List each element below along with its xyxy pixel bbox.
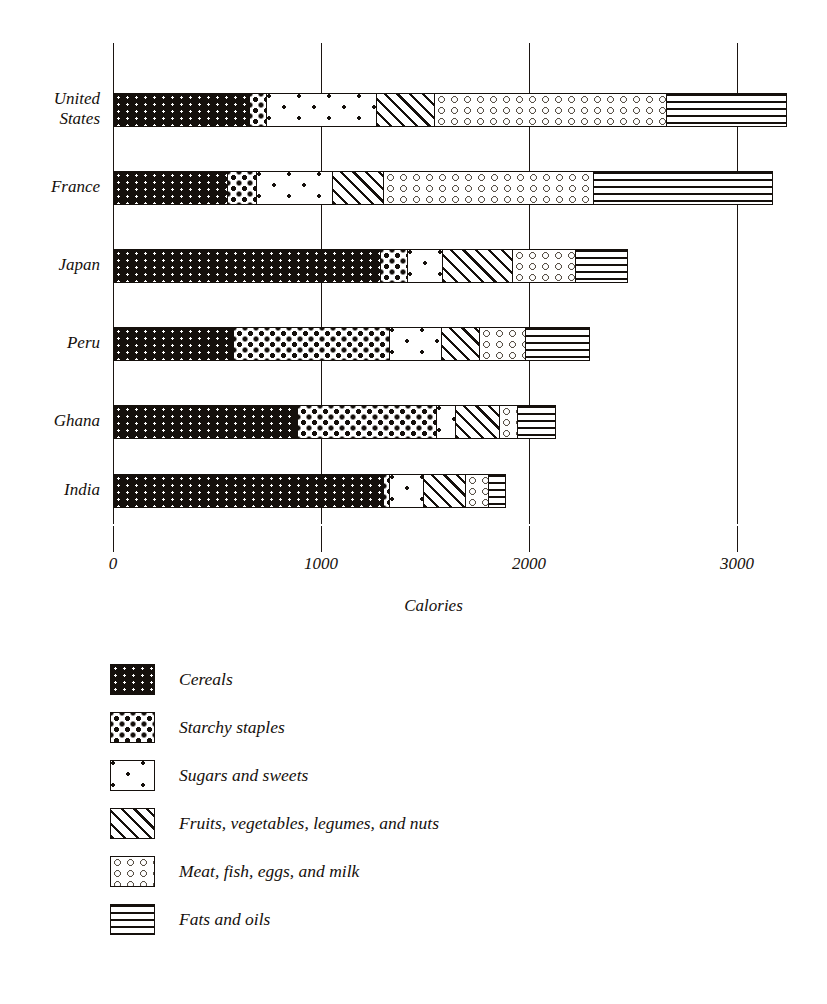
- segment-fruits-vegetables-legumes-and-nuts: [456, 406, 500, 438]
- category-label-ghana: Ghana: [0, 411, 114, 431]
- segment-fruits-vegetables-legumes-and-nuts: [424, 475, 466, 507]
- asterisks-swatch: [110, 760, 155, 791]
- category-label-india: India: [0, 480, 114, 500]
- stacked-bar-chart: United StatesFranceJapanPeruGhanaIndia 0…: [0, 0, 827, 600]
- segment-fruits-vegetables-legumes-and-nuts: [333, 172, 384, 204]
- segment-cereals: [114, 172, 228, 204]
- segment-meat-fish-eggs-and-milk: [480, 328, 527, 360]
- legend-label: Sugars and sweets: [179, 765, 308, 786]
- segment-fruits-vegetables-legumes-and-nuts: [442, 328, 480, 360]
- segment-meat-fish-eggs-and-milk: [466, 475, 489, 507]
- legend-label: Cereals: [179, 669, 233, 690]
- segment-fats-and-oils: [489, 475, 505, 507]
- legend-label: Fats and oils: [179, 909, 270, 930]
- segment-sugars-and-sweets: [257, 172, 333, 204]
- legend-item: Fats and oils: [110, 895, 730, 943]
- chart-legend: CerealsStarchy staplesSugars and sweetsF…: [110, 655, 730, 943]
- category-label-united-states: United States: [0, 89, 114, 129]
- segment-starchy-staples: [228, 172, 258, 204]
- legend-label: Fruits, vegetables, legumes, and nuts: [179, 813, 439, 834]
- category-label-peru: Peru: [0, 333, 114, 353]
- bar-india: [113, 474, 506, 508]
- tick-label-2000: 2000: [489, 554, 569, 574]
- category-label-france: France: [0, 177, 114, 197]
- segment-starchy-staples: [381, 250, 408, 282]
- segment-sugars-and-sweets: [267, 94, 377, 126]
- chart-page: United StatesFranceJapanPeruGhanaIndia 0…: [0, 0, 827, 1004]
- bar-united-states: [113, 93, 787, 127]
- tick-mark-2000: [529, 526, 530, 552]
- segment-meat-fish-eggs-and-milk: [435, 94, 667, 126]
- legend-item: Starchy staples: [110, 703, 730, 751]
- tick-label-3000: 3000: [697, 554, 777, 574]
- segment-meat-fish-eggs-and-milk: [513, 250, 576, 282]
- segment-fruits-vegetables-legumes-and-nuts: [443, 250, 514, 282]
- segment-starchy-staples: [298, 406, 437, 438]
- segment-meat-fish-eggs-and-milk: [384, 172, 594, 204]
- bar-ghana: [113, 405, 556, 439]
- legend-item: Fruits, vegetables, legumes, and nuts: [110, 799, 730, 847]
- segment-cereals: [114, 250, 381, 282]
- diagonal-hatch-swatch: [110, 808, 155, 839]
- legend-item: Sugars and sweets: [110, 751, 730, 799]
- segment-sugars-and-sweets: [408, 250, 443, 282]
- segment-cereals: [114, 475, 384, 507]
- segment-fruits-vegetables-legumes-and-nuts: [377, 94, 435, 126]
- segment-fats-and-oils: [518, 406, 555, 438]
- tick-label-0: 0: [73, 554, 153, 574]
- legend-label: Meat, fish, eggs, and milk: [179, 861, 359, 882]
- segment-starchy-staples: [234, 328, 390, 360]
- wavy-lines-swatch: [110, 904, 155, 935]
- segment-sugars-and-sweets: [390, 475, 425, 507]
- bar-japan: [113, 249, 628, 283]
- tick-mark-0: [113, 526, 114, 552]
- chevron-zigzag-swatch: [110, 664, 155, 695]
- segment-fats-and-oils: [576, 250, 627, 282]
- segment-fats-and-oils: [526, 328, 589, 360]
- segment-starchy-staples: [250, 94, 268, 126]
- segment-cereals: [114, 328, 234, 360]
- segment-sugars-and-sweets: [390, 328, 442, 360]
- bar-peru: [113, 327, 590, 361]
- bar-france: [113, 171, 773, 205]
- segment-cereals: [114, 406, 298, 438]
- legend-label: Starchy staples: [179, 717, 285, 738]
- segment-fats-and-oils: [667, 94, 786, 126]
- category-label-japan: Japan: [0, 255, 114, 275]
- dense-dots-swatch: [110, 712, 155, 743]
- open-circles-swatch: [110, 856, 155, 887]
- segment-sugars-and-sweets: [437, 406, 456, 438]
- x-axis-title: Calories: [0, 596, 827, 616]
- tick-label-1000: 1000: [281, 554, 361, 574]
- segment-cereals: [114, 94, 250, 126]
- tick-mark-3000: [737, 526, 738, 552]
- segment-fats-and-oils: [594, 172, 772, 204]
- segment-meat-fish-eggs-and-milk: [500, 406, 518, 438]
- legend-item: Cereals: [110, 655, 730, 703]
- legend-item: Meat, fish, eggs, and milk: [110, 847, 730, 895]
- tick-mark-1000: [321, 526, 322, 552]
